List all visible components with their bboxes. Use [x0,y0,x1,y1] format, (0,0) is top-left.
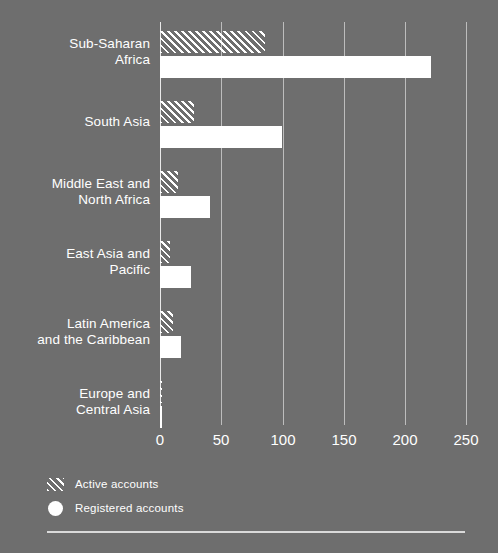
category-label-middle-east-north-africa: Middle East and North Africa [2,176,150,208]
bar-active-latin-america-caribbean [160,311,173,333]
category-label-east-asia-pacific: East Asia and Pacific [2,246,150,278]
bar-registered-middle-east-north-africa [160,196,210,218]
gridline-0 [160,22,161,425]
circle-swatch-icon [48,501,63,516]
bottom-divider [47,531,465,533]
xtick-label-250: 250 [453,431,478,448]
legend-label-active-accounts: Active accounts [75,478,159,490]
category-label-sub-saharan-africa: Sub-Saharan Africa [2,36,150,68]
plot-area [160,22,466,425]
bar-registered-sub-saharan-africa [160,56,431,78]
category-label-europe-central-asia: Europe and Central Asia [2,386,150,418]
bar-active-east-asia-pacific [160,241,170,263]
bar-active-middle-east-north-africa [160,171,178,193]
bar-active-europe-central-asia [160,381,162,403]
gridline-250 [466,22,467,425]
bar-registered-latin-america-caribbean [160,336,181,358]
gridline-50 [221,22,222,425]
bar-active-sub-saharan-africa [160,31,265,53]
bar-chart: Sub-Saharan Africa South Asia Middle Eas… [0,0,498,553]
chart-legend: Active accounts Registered accounts [47,474,307,522]
legend-item-active-accounts: Active accounts [47,474,307,494]
legend-item-registered-accounts: Registered accounts [47,498,307,518]
gridline-200 [405,22,406,425]
xtick-label-150: 150 [331,431,356,448]
hatch-swatch-icon [47,478,64,491]
gridline-150 [344,22,345,425]
xtick-label-0: 0 [156,431,164,448]
bar-active-south-asia [160,101,194,123]
category-axis: Sub-Saharan Africa South Asia Middle Eas… [0,22,150,425]
gridline-100 [283,22,284,425]
category-label-south-asia: South Asia [2,114,150,130]
xtick-label-50: 50 [213,431,230,448]
category-label-latin-america-caribbean: Latin America and the Caribbean [2,316,150,348]
legend-label-registered-accounts: Registered accounts [75,502,184,514]
bar-registered-south-asia [160,126,282,148]
xtick-label-100: 100 [270,431,295,448]
bar-registered-east-asia-pacific [160,266,191,288]
x-axis: 0 50 100 150 200 250 [160,425,466,455]
xtick-label-200: 200 [392,431,417,448]
